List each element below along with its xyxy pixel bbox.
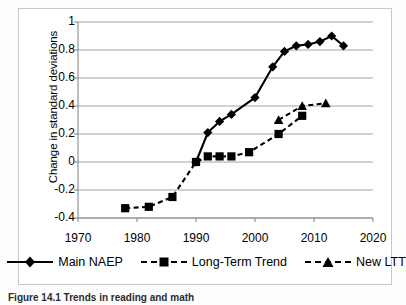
legend-label-long-term-trend: Long-Term Trend (191, 255, 287, 269)
data-point-square (216, 152, 224, 160)
data-point-square (245, 148, 253, 156)
legend-swatch-square (140, 255, 188, 269)
data-point-triangle (274, 115, 284, 124)
data-point-square (121, 204, 129, 212)
data-point-square (192, 158, 200, 166)
legend-label-new-ltt: New LTT (355, 255, 406, 269)
chart-plot-area: Change in standard deviations 1 0.8 0.6 … (18, 8, 392, 285)
data-series-layer (121, 31, 348, 212)
data-point-square (275, 130, 283, 138)
data-point-diamond (292, 41, 301, 50)
chart-canvas (19, 9, 393, 249)
figure-container: Change in standard deviations 1 0.8 0.6 … (0, 0, 406, 305)
legend-item-main-naep: Main NAEP (6, 255, 123, 269)
data-point-diamond (315, 37, 324, 46)
chart-legend: Main NAEP Long-Term Trend New LTT (19, 255, 393, 269)
series-line-main-naep (196, 36, 344, 162)
legend-swatch-diamond (6, 255, 54, 269)
legend-swatch-triangle (304, 255, 352, 269)
data-point-diamond (304, 40, 313, 49)
legend-label-main-naep: Main NAEP (57, 255, 123, 269)
figure-caption: Figure 14.1 Trends in reading and math (8, 292, 404, 305)
legend-item-new-ltt: New LTT (304, 255, 406, 269)
gridlines (78, 22, 373, 218)
data-point-square (145, 203, 153, 211)
data-point-square (204, 152, 212, 160)
data-point-square (168, 193, 176, 201)
data-point-square (298, 112, 306, 120)
legend-item-long-term-trend: Long-Term Trend (140, 255, 287, 269)
data-point-triangle (321, 98, 331, 107)
data-point-square (227, 152, 235, 160)
